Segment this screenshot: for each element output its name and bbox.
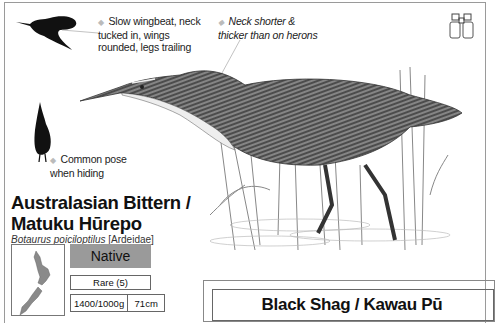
new-zealand-map [12,245,64,315]
weight-value: 1400/1000g [71,295,127,311]
length-value: 71cm [127,295,164,311]
next-entry-title: Black Shag / Kawau Pū [212,295,492,315]
bullet-icon: ◆ [98,18,104,27]
bullet-icon: ◆ [50,156,56,165]
flight-note: ◆ Slow wingbeat, neck tucked in, wings r… [98,15,200,53]
binoculars-icon [448,10,476,42]
rarity-label: Rare (5) [70,275,151,290]
status-badge: Native [70,244,151,268]
species-title: Australasian Bittern / Matuku Hūrepo [11,192,190,234]
distribution-map [11,244,65,316]
measurements: 1400/1000g 71cm [70,294,165,312]
flight-leader-line [60,28,100,38]
bullet-icon: ◆ [218,18,224,27]
